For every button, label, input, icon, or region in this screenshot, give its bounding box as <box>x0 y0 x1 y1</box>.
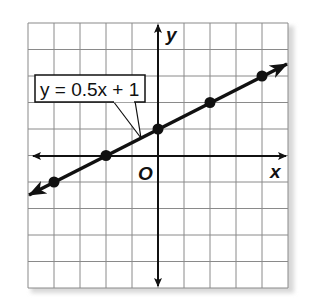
data-point <box>101 150 112 161</box>
data-point <box>49 177 60 188</box>
data-point <box>153 124 164 135</box>
data-point <box>257 71 268 82</box>
y-axis-label: y <box>165 24 178 45</box>
origin-label: O <box>138 163 153 184</box>
coordinate-graph: y x O y = 0.5x + 1 <box>0 0 310 302</box>
x-axis-label: x <box>269 161 282 182</box>
equation-label: y = 0.5x + 1 <box>40 79 139 100</box>
data-point <box>205 97 216 108</box>
